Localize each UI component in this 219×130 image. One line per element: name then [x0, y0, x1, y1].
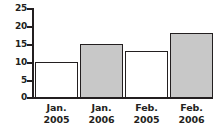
y-tick-label-20: 20 [1, 22, 27, 31]
y-tick-0 [27, 97, 33, 99]
category-label-feb-2005: Feb. 2005 [121, 102, 172, 125]
plot-area: 25 20 15 10 5 0 Jan. 2005 Jan. 2006 Feb.… [0, 0, 219, 130]
y-tick-15 [27, 44, 33, 46]
category-label-line2: 2005 [31, 114, 82, 126]
bar-feb-2006 [170, 33, 213, 98]
category-label-jan-2006: Jan. 2006 [76, 102, 127, 125]
y-tick-label-15: 15 [1, 40, 27, 49]
category-label-line2: 2006 [166, 114, 217, 126]
y-tick-25 [27, 8, 33, 10]
category-label-line1: Feb. [166, 102, 217, 114]
category-label-line2: 2006 [76, 114, 127, 126]
category-label-jan-2005: Jan. 2005 [31, 102, 82, 125]
y-tick-10 [27, 62, 33, 64]
category-label-line1: Jan. [76, 102, 127, 114]
y-tick-20 [27, 26, 33, 28]
category-label-line1: Feb. [121, 102, 172, 114]
y-tick-label-0: 0 [1, 93, 27, 102]
category-label-line2: 2005 [121, 114, 172, 126]
y-axis-line [32, 8, 34, 99]
category-label-feb-2006: Feb. 2006 [166, 102, 217, 125]
y-tick-label-25: 25 [1, 4, 27, 13]
category-label-line1: Jan. [31, 102, 82, 114]
bar-jan-2006 [80, 44, 123, 98]
bar-jan-2005 [35, 62, 78, 98]
bar-feb-2005 [125, 51, 168, 98]
y-tick-label-10: 10 [1, 58, 27, 67]
bar-chart: 25 20 15 10 5 0 Jan. 2005 Jan. 2006 Feb.… [0, 0, 219, 130]
y-tick-5 [27, 80, 33, 82]
y-tick-label-5: 5 [1, 76, 27, 85]
